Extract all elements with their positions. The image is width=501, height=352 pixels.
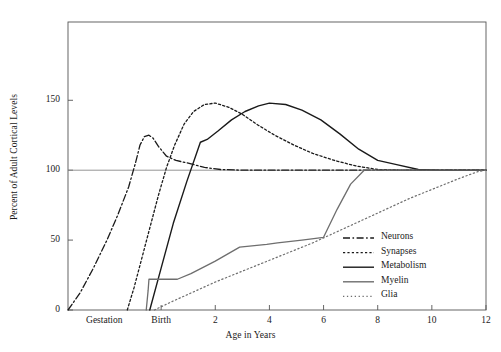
series-line-metabolism bbox=[150, 103, 486, 310]
series-line-synapses bbox=[127, 103, 486, 310]
x-tick-label: 12 bbox=[456, 315, 501, 325]
legend-label-synapses: Synapses bbox=[381, 246, 416, 256]
brain-development-chart: Percent of Adult Cortical Levels Age in … bbox=[0, 0, 501, 352]
y-tick-label: 150 bbox=[26, 94, 60, 104]
x-axis-title: Age in Years bbox=[0, 330, 501, 340]
data-series-group bbox=[68, 103, 486, 310]
y-axis-title: Percent of Adult Cortical Levels bbox=[9, 82, 19, 232]
legend-label-glia: Glia bbox=[381, 289, 397, 299]
legend-label-myelin: Myelin bbox=[381, 275, 408, 285]
x-tick-label: 2 bbox=[185, 315, 245, 325]
y-tick-label: 0 bbox=[26, 304, 60, 314]
legend-line-swatches bbox=[343, 238, 374, 296]
series-line-glia bbox=[154, 170, 486, 310]
x-tick-label: 8 bbox=[348, 315, 408, 325]
x-region-label: Gestation bbox=[64, 315, 144, 325]
y-tick-label: 100 bbox=[26, 164, 60, 174]
x-tick-label: 4 bbox=[239, 315, 299, 325]
y-tick-label: 50 bbox=[26, 234, 60, 244]
series-line-myelin bbox=[146, 170, 486, 310]
legend-label-metabolism: Metabolism bbox=[381, 260, 426, 270]
chart-canvas bbox=[0, 0, 501, 352]
series-line-neurons bbox=[68, 135, 486, 310]
x-tick-label: 10 bbox=[402, 315, 462, 325]
x-tick-label: 6 bbox=[294, 315, 354, 325]
legend-label-neurons: Neurons bbox=[381, 231, 413, 241]
